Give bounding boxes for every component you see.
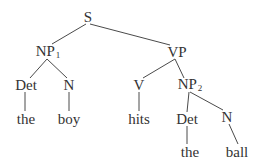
node-np1: NP1 xyxy=(36,44,61,60)
node-det2: Det xyxy=(176,112,198,127)
edge-np2-det2 xyxy=(187,92,189,112)
edge-n2-ball xyxy=(229,124,238,144)
node-v: V xyxy=(134,78,145,93)
node-label: Det xyxy=(176,111,198,127)
node-subscript: 2 xyxy=(198,83,203,93)
node-label: VP xyxy=(167,44,186,60)
edge-np1-det1 xyxy=(30,59,47,78)
node-label: the xyxy=(17,111,35,127)
node-det1: Det xyxy=(15,78,37,93)
node-label: NP xyxy=(178,76,197,92)
node-label: N xyxy=(222,109,233,125)
node-label: the xyxy=(181,144,199,160)
edge-s-vp xyxy=(90,24,170,45)
edge-np1-n1 xyxy=(47,59,67,78)
node-the2: the xyxy=(181,145,199,160)
node-n1: N xyxy=(64,78,75,93)
edge-s-np1 xyxy=(52,24,86,44)
node-label: Det xyxy=(15,77,37,93)
node-np2: NP2 xyxy=(178,77,203,93)
node-label: N xyxy=(64,77,75,93)
node-hits: hits xyxy=(128,112,150,127)
node-s: S xyxy=(84,10,92,25)
node-n2: N xyxy=(222,110,233,125)
node-label: V xyxy=(134,77,145,93)
node-label: hits xyxy=(128,111,150,127)
node-subscript: 1 xyxy=(56,50,61,60)
node-ball: ball xyxy=(226,145,249,160)
node-boy: boy xyxy=(58,112,81,127)
node-label: ball xyxy=(226,144,249,160)
node-label: S xyxy=(84,9,92,25)
node-label: NP xyxy=(36,43,55,59)
edge-vp-v xyxy=(143,59,175,78)
node-label: boy xyxy=(58,111,81,127)
node-the1: the xyxy=(17,112,35,127)
tree-edges xyxy=(0,0,260,168)
edge-np2-n2 xyxy=(190,92,223,110)
node-vp: VP xyxy=(167,45,186,60)
syntax-tree-diagram: SNP1VPDetNtheboyVNP2hitsDetNtheball xyxy=(0,0,260,168)
